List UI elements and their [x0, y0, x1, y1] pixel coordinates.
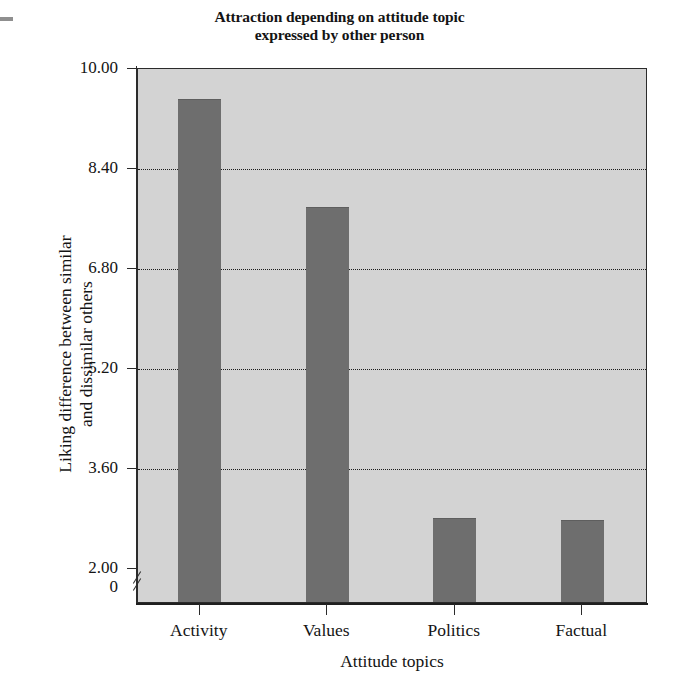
y-axis-tick	[127, 568, 138, 569]
chart-title: Attraction depending on attitude topic e…	[0, 8, 679, 44]
bar-factual	[561, 520, 604, 602]
x-axis-line	[136, 603, 648, 605]
y-axis-tick	[127, 268, 138, 269]
y-axis-tick-label: 10.00	[58, 59, 118, 76]
bar-activity	[178, 99, 221, 603]
plot-area	[137, 68, 647, 603]
y-axis-tick-label: 8.40	[58, 159, 118, 176]
y-axis-tick-label: 6.80	[58, 259, 118, 276]
y-axis-tick	[127, 368, 138, 369]
x-axis-tick-label-politics: Politics	[389, 620, 519, 640]
y-axis-tick-label: 3.60	[58, 459, 118, 476]
chart-title-line-2: expressed by other person	[0, 26, 679, 44]
x-axis-tick-label-factual: Factual	[516, 620, 646, 640]
y-axis-tick	[127, 168, 138, 169]
chart-title-line-1: Attraction depending on attitude topic	[0, 8, 679, 26]
x-axis-tick-label-activity: Activity	[134, 620, 264, 640]
x-axis-tick	[199, 604, 200, 615]
x-axis-tick-label-values: Values	[261, 620, 391, 640]
x-axis-title: Attitude topics	[137, 651, 647, 671]
x-axis-tick	[326, 604, 327, 615]
y-axis-line	[136, 66, 137, 605]
plot-inner	[138, 69, 646, 602]
y-axis-tick-label: 5.20	[58, 359, 118, 376]
y-axis-title: Liking difference between similar and di…	[55, 144, 97, 564]
y-axis-tick	[127, 68, 138, 69]
y-axis-tick	[127, 468, 138, 469]
x-axis-tick	[454, 604, 455, 615]
x-axis-tick	[581, 604, 582, 615]
y-axis-tick-label: 2.00	[58, 559, 118, 576]
y-axis-title-line-1: Liking difference between similar	[55, 144, 76, 564]
y-axis-origin-label: 0	[82, 578, 118, 595]
y-axis-break-icon	[129, 570, 145, 592]
bar-values	[306, 207, 349, 602]
y-axis-title-line-2: and dissimilar others	[76, 144, 97, 564]
bar-politics	[433, 518, 476, 602]
